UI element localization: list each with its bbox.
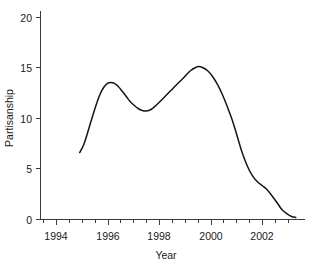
y-axis-tick-labels: 20 15 10 5 0 — [20, 12, 32, 226]
x-tick-label-2002: 2002 — [250, 230, 274, 242]
chart-figure: 20 15 10 5 0 1994 1996 1998 2000 2002 Pa… — [0, 0, 311, 268]
y-axis-title: Partisanship — [3, 89, 15, 147]
partisanship-series-line — [80, 66, 296, 217]
y-tick-label-0: 0 — [26, 214, 32, 226]
y-tick-label-10: 10 — [20, 113, 32, 125]
x-tick-label-1996: 1996 — [96, 230, 120, 242]
x-axis-title: Year — [155, 249, 177, 261]
x-tick-label-2000: 2000 — [199, 230, 223, 242]
partisanship-line-chart: 20 15 10 5 0 1994 1996 1998 2000 2002 Pa… — [0, 0, 311, 268]
y-axis-ticks — [36, 18, 41, 220]
y-tick-label-20: 20 — [20, 12, 32, 24]
x-tick-label-1998: 1998 — [147, 230, 171, 242]
x-tick-label-1994: 1994 — [44, 230, 68, 242]
x-axis-tick-labels: 1994 1996 1998 2000 2002 — [44, 230, 274, 242]
y-tick-label-15: 15 — [20, 62, 32, 74]
x-axis-ticks — [44, 220, 289, 225]
y-tick-label-5: 5 — [26, 163, 32, 175]
